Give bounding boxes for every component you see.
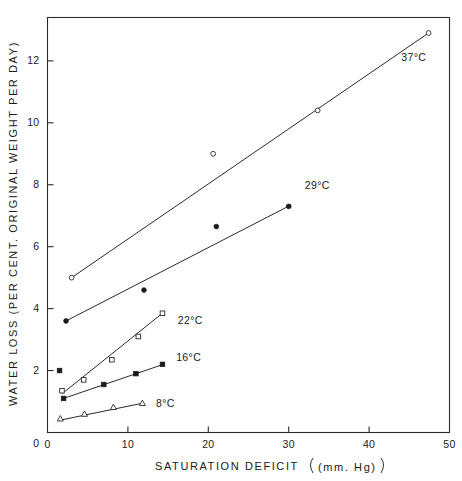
data-point-16C bbox=[61, 396, 66, 401]
figure-container: 01020304050 246810120 37°C29°C22°C16°C8°… bbox=[0, 0, 462, 481]
series-label-8C: 8°C bbox=[156, 397, 175, 409]
y-tick-label: 4 bbox=[33, 302, 39, 314]
x-axis-units: (mm. Hg) bbox=[318, 461, 377, 473]
data-point-29C bbox=[214, 224, 219, 229]
data-point-29C bbox=[142, 288, 147, 293]
y-axis-title-group: WATER LOSS (PER CENT. ORIGINAL WEIGHT PE… bbox=[7, 41, 19, 406]
x-axis-title: SATURATION DEFICIT bbox=[155, 460, 299, 472]
x-tick-label: 0 bbox=[44, 438, 50, 450]
data-point-22C bbox=[81, 378, 86, 383]
series-label-22C: 22°C bbox=[178, 314, 203, 326]
data-point-22C bbox=[60, 388, 65, 393]
x-tick-label: 30 bbox=[283, 438, 295, 450]
y-tick-label: 8 bbox=[33, 178, 39, 190]
y-axis-title: WATER LOSS (PER CENT. ORIGINAL WEIGHT PE… bbox=[7, 41, 19, 406]
y-tick-label: 10 bbox=[27, 116, 39, 128]
data-point-22C bbox=[136, 334, 141, 339]
data-point-16C bbox=[57, 368, 62, 373]
x-tick-label: 10 bbox=[122, 438, 134, 450]
scatter-plot: 01020304050 246810120 37°C29°C22°C16°C8°… bbox=[0, 0, 462, 481]
data-point-37C bbox=[69, 275, 74, 280]
series-label-16C: 16°C bbox=[176, 351, 201, 363]
data-point-37C bbox=[211, 151, 216, 156]
data-point-29C bbox=[64, 319, 69, 324]
series-label-37C: 37°C bbox=[401, 51, 426, 63]
data-point-37C bbox=[315, 108, 320, 113]
data-point-22C bbox=[160, 311, 165, 316]
x-tick-label: 20 bbox=[202, 438, 214, 450]
data-point-16C bbox=[134, 371, 139, 376]
data-point-37C bbox=[426, 31, 431, 36]
plot-background bbox=[0, 0, 462, 481]
data-point-29C bbox=[286, 204, 291, 209]
x-tick-label: 40 bbox=[363, 438, 375, 450]
y-tick-label: 12 bbox=[27, 54, 39, 66]
data-point-16C bbox=[101, 382, 106, 387]
x-tick-label: 50 bbox=[443, 438, 455, 450]
y-tick-label: 6 bbox=[33, 240, 39, 252]
x-axis-title-group: SATURATION DEFICIT (mm. Hg) bbox=[155, 458, 384, 473]
data-point-16C bbox=[160, 362, 165, 367]
data-point-22C bbox=[110, 357, 115, 362]
y-tick-label: 2 bbox=[33, 364, 39, 376]
series-label-29C: 29°C bbox=[305, 179, 330, 191]
y-origin-label: 0 bbox=[33, 437, 39, 449]
